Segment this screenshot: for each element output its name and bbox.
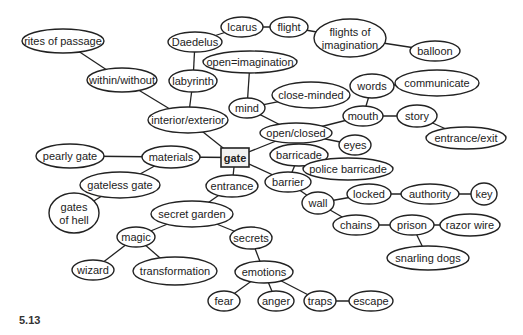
node-communicate: communicate <box>395 70 479 96</box>
node-label: chains <box>340 219 372 231</box>
node-entrance-exit: entrance/exit <box>426 127 506 149</box>
node-label: materials <box>149 151 194 163</box>
node-wizard: wizard <box>72 260 114 280</box>
node-entrance: entrance <box>206 175 258 197</box>
node-eyes: eyes <box>339 135 371 155</box>
node-label: razor wire <box>446 219 494 231</box>
node-balloon: balloon <box>410 41 460 61</box>
node-flights-of-imagination: flights ofimagination <box>314 19 386 57</box>
node-gateless-gate: gateless gate <box>80 172 160 198</box>
node-prison: prison <box>390 215 434 235</box>
node-label: mouth <box>348 110 379 122</box>
node-label: key <box>475 188 493 200</box>
node-label: Icarus <box>227 21 257 33</box>
node-label: authority <box>409 188 452 200</box>
node-interior-exterior: interior/exterior <box>148 107 228 133</box>
node-label: interior/exterior <box>151 114 225 126</box>
node-label: open/closed <box>266 127 325 139</box>
node-label: entrance <box>211 180 254 192</box>
node-story: story <box>397 105 437 127</box>
node-words: words <box>350 74 394 98</box>
node-label: secrets <box>233 232 269 244</box>
node-labyrinth: labyrinth <box>169 70 217 92</box>
concept-nodes: Icarusflightflights ofimaginationballoon… <box>22 17 506 311</box>
node-flight: flight <box>270 17 308 37</box>
mind-map-diagram: Icarusflightflights ofimaginationballoon… <box>0 0 523 335</box>
node-wall: wall <box>302 192 334 214</box>
node-label: flight <box>277 21 300 33</box>
node-pearly-gate: pearly gate <box>36 144 104 168</box>
node-label: wizard <box>76 264 109 276</box>
node-label: flights of <box>330 26 372 38</box>
node-locked: locked <box>347 184 391 204</box>
node-label: story <box>405 110 429 122</box>
node-label: traps <box>308 295 333 307</box>
node-label: barrier <box>272 176 304 188</box>
central-node-gate: gate <box>221 148 249 167</box>
node-label: secret garden <box>158 208 225 220</box>
node-secret-garden: secret garden <box>151 201 233 227</box>
node-rites-of-passage: rites of passage <box>22 29 104 53</box>
node-label: escape <box>353 295 388 307</box>
node-label: prison <box>397 219 427 231</box>
node-authority: authority <box>401 184 459 204</box>
node-anger: anger <box>258 291 294 311</box>
node-label: balloon <box>417 45 452 57</box>
node-label: labyrinth <box>172 75 214 87</box>
node-label: police barricade <box>309 163 387 175</box>
node-open-closed: open/closed <box>260 123 332 143</box>
figure-caption: 5.13 <box>19 314 40 326</box>
node-gates-of-hell: gatesof hell <box>49 193 99 233</box>
node-label: mind <box>235 102 259 114</box>
node-transformation: transformation <box>133 257 217 285</box>
node-label: entrance/exit <box>435 132 498 144</box>
node-label: pearly gate <box>43 150 97 162</box>
node-label: snarling dogs <box>395 252 461 264</box>
node-label: locked <box>353 188 385 200</box>
node-daedelus: Daedelus <box>168 32 222 52</box>
node-label: anger <box>262 295 290 307</box>
node-icarus: Icarus <box>221 17 263 37</box>
node-fear: fear <box>208 291 240 311</box>
node-escape: escape <box>349 291 393 311</box>
node-label: rites of passage <box>24 35 102 47</box>
node-barrier: barrier <box>265 172 311 192</box>
node-label: words <box>356 80 387 92</box>
node-label: fear <box>215 295 234 307</box>
node-label: Daedelus <box>172 36 219 48</box>
node-chains: chains <box>333 215 379 235</box>
node-within-without: within/without <box>87 68 157 92</box>
node-materials: materials <box>142 146 200 168</box>
node-label: imagination <box>322 39 378 51</box>
node-label: transformation <box>140 265 210 277</box>
node-razor-wire: razor wire <box>440 214 500 236</box>
node-mind: mind <box>229 98 265 118</box>
node-label: gates <box>61 201 88 213</box>
node-police-barricade: police barricade <box>303 158 393 180</box>
node-secrets: secrets <box>230 227 272 249</box>
node-key: key <box>471 183 497 205</box>
node-label: emotions <box>242 266 287 278</box>
node-label: wall <box>308 197 328 209</box>
gate-label: gate <box>224 152 247 164</box>
node-snarling-dogs: snarling dogs <box>387 246 469 270</box>
node-label: eyes <box>343 139 367 151</box>
node-open-imagination: open=imagination <box>203 51 297 73</box>
node-label: barricade <box>276 149 322 161</box>
node-label: gateless gate <box>87 179 152 191</box>
node-magic: magic <box>117 227 155 247</box>
node-label: communicate <box>404 77 469 89</box>
node-label: of hell <box>59 214 88 226</box>
node-label: within/without <box>88 74 155 86</box>
node-label: open=imagination <box>206 56 293 68</box>
node-label: close-minded <box>278 89 343 101</box>
node-emotions: emotions <box>235 261 293 283</box>
node-traps: traps <box>304 291 336 311</box>
node-label: magic <box>121 231 151 243</box>
node-mouth: mouth <box>343 106 383 126</box>
node-close-minded: close-minded <box>272 82 350 108</box>
